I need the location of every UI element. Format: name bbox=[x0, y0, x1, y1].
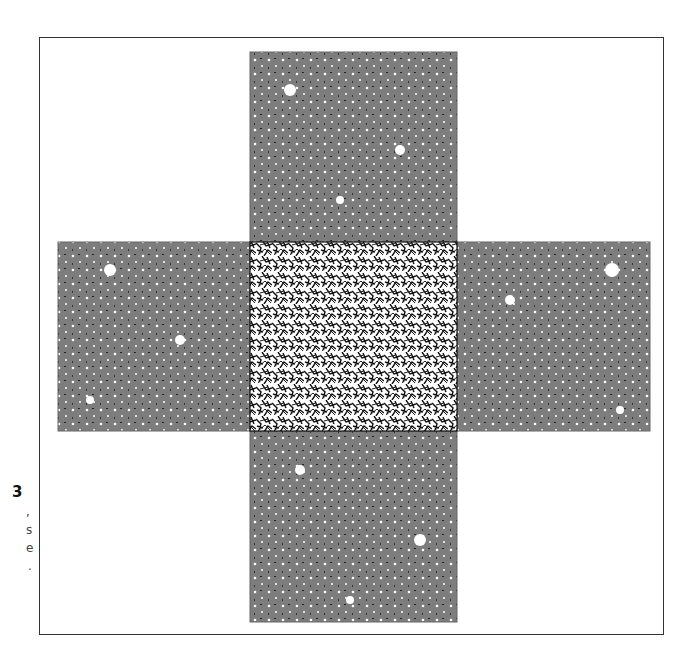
left-image-cell bbox=[58, 242, 250, 431]
simulation-snapshot bbox=[0, 0, 695, 670]
bottom-image-cell bbox=[250, 431, 457, 622]
top-image-cell bbox=[250, 52, 457, 242]
central-simulation-cell bbox=[250, 242, 457, 431]
right-image-cell bbox=[457, 242, 650, 431]
